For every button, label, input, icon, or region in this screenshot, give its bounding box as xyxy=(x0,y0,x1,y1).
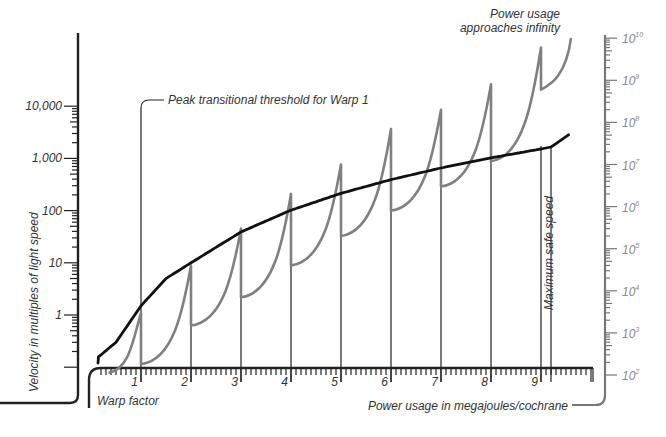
left-axis-ticks xyxy=(64,106,78,367)
x-tick-label: 9 xyxy=(531,375,538,389)
x-tick-label: 2 xyxy=(180,375,188,389)
peak-threshold-leader xyxy=(141,100,164,275)
power-usage-curve xyxy=(109,38,572,373)
warp-chart: 10,0001,000100101 1010109108107106105104… xyxy=(0,0,666,437)
warp-threshold-lines xyxy=(141,146,551,382)
x-tick-label: 5 xyxy=(331,375,338,389)
x-tick-label: 3 xyxy=(231,375,238,389)
right-tick-label: 106 xyxy=(622,200,639,215)
right-tick-label: 107 xyxy=(622,158,640,173)
left-tick-label: 1,000 xyxy=(32,151,62,165)
x-tick-label: 4 xyxy=(281,375,288,389)
x-axis-title: Warp factor xyxy=(97,394,160,408)
right-tick-label: 108 xyxy=(622,115,639,130)
x-tick-label: 7 xyxy=(431,375,439,389)
y-axis-title: Velocity in multiples of light speed xyxy=(27,212,41,392)
x-tick-label: 6 xyxy=(381,375,388,389)
x-tick-label: 8 xyxy=(481,375,488,389)
left-tick-label: 100 xyxy=(42,204,62,218)
x-axis-labels: 123456789 xyxy=(131,375,538,389)
x-axis-secondary-title: Power usage in megajoules/cochrane xyxy=(368,399,568,413)
right-axis-labels: 1010109108107106105104103102 xyxy=(622,31,643,383)
right-tick-label: 105 xyxy=(622,242,639,257)
right-tick-label: 1010 xyxy=(622,31,643,46)
x-tick-label: 1 xyxy=(131,375,138,389)
power-infinity-annotation-line1: Power usage xyxy=(490,7,560,21)
peak-threshold-annotation: Peak transitional threshold for Warp 1 xyxy=(168,93,369,107)
right-tick-label: 102 xyxy=(622,368,639,383)
max-safe-speed-annotation: Maximum safe speed xyxy=(542,196,556,310)
left-tick-label: 1 xyxy=(55,308,62,322)
x-axis-ticks xyxy=(101,368,593,382)
left-tick-label: 10,000 xyxy=(25,99,62,113)
right-tick-label: 103 xyxy=(622,326,639,341)
power-infinity-annotation-line2: approaches infinity xyxy=(460,21,561,35)
left-tick-label: 10 xyxy=(49,256,63,270)
right-tick-label: 104 xyxy=(622,284,639,299)
right-axis-ticks xyxy=(605,38,617,375)
right-tick-label: 109 xyxy=(622,73,639,88)
velocity-curve xyxy=(98,135,569,363)
right-axis xyxy=(572,35,605,405)
